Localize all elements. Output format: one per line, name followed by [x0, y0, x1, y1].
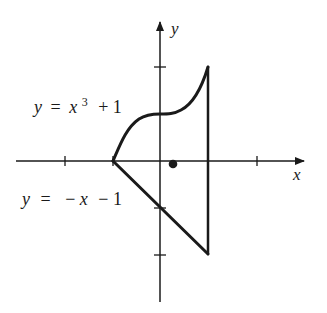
- region-plot: y x y = x 3 + 1 y = − x − 1: [0, 0, 327, 313]
- linear-label-neg: −: [65, 189, 75, 209]
- linear-equation-label: y = − x − 1: [20, 189, 122, 209]
- y-axis-label: y: [169, 19, 179, 38]
- cubic-label-var: x: [68, 97, 77, 117]
- cubic-label-eq: =: [51, 97, 61, 117]
- cubic-equation-label: y = x 3 + 1: [32, 90, 122, 117]
- x-axis-label: x: [292, 165, 301, 184]
- cubic-label-lhs: y: [32, 97, 42, 117]
- linear-label-var: x: [79, 189, 88, 209]
- cubic-label-exp: 3: [82, 95, 88, 109]
- centroid-point: [169, 160, 178, 169]
- diagram-canvas: y x y = x 3 + 1 y = − x − 1: [0, 0, 327, 313]
- linear-label-eq: =: [41, 189, 51, 209]
- linear-label-rest: − 1: [98, 189, 122, 209]
- cubic-label-rest: + 1: [98, 97, 122, 117]
- linear-label-lhs: y: [20, 189, 30, 209]
